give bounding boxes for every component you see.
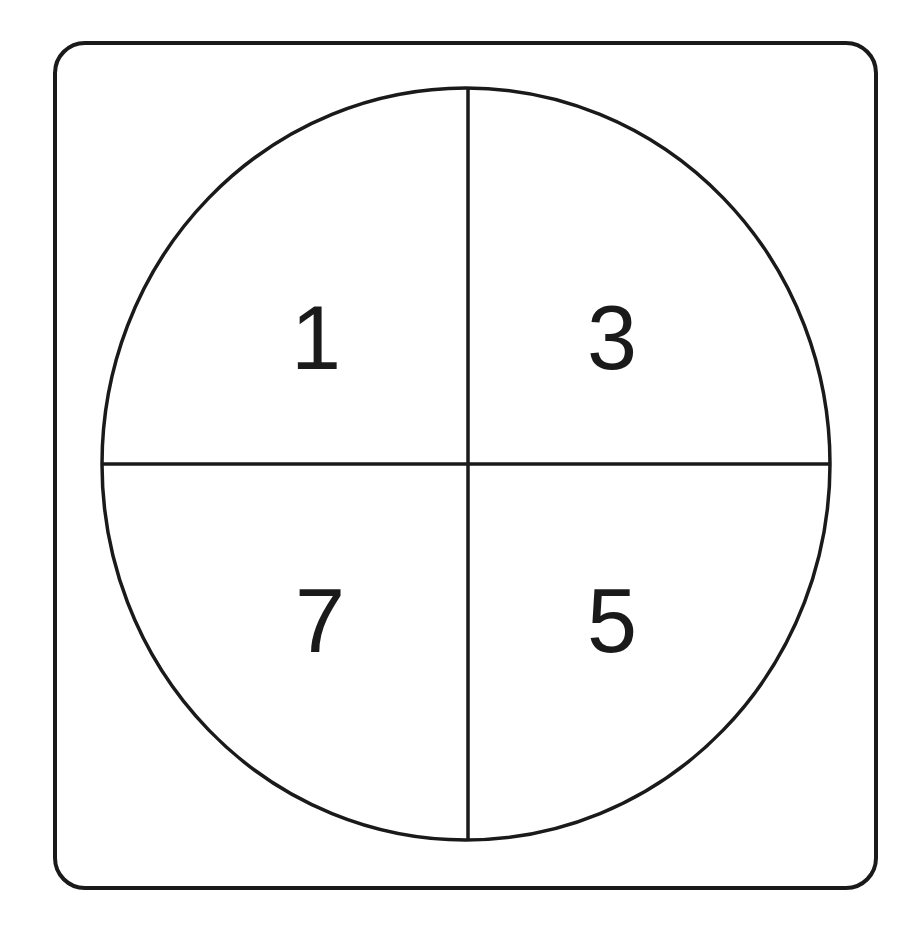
- quadrant-top-left-label: 1: [291, 288, 341, 388]
- quadrant-bottom-right-label: 5: [587, 571, 637, 671]
- quadrant-diagram: 1 3 7 5: [0, 0, 920, 929]
- quadrant-top-right-label: 3: [587, 288, 637, 388]
- quadrant-bottom-left-label: 7: [295, 571, 345, 671]
